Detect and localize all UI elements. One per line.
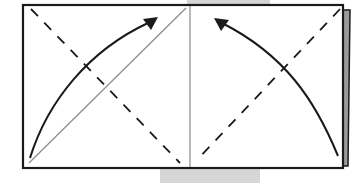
paper-rectangle <box>23 5 343 168</box>
origami-diagram <box>0 0 361 183</box>
